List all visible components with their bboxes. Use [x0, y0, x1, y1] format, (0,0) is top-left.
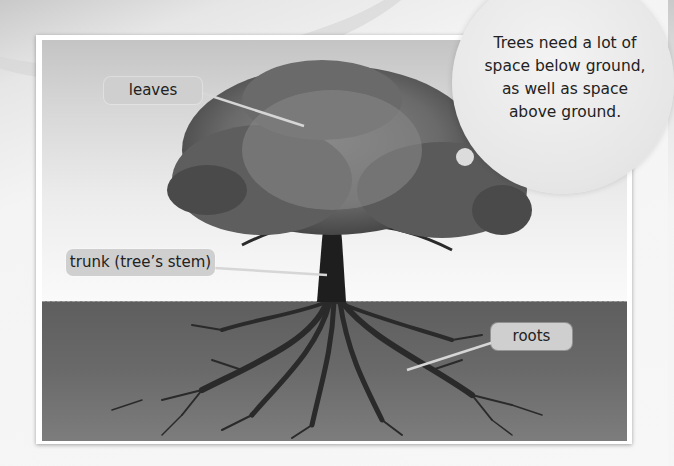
- callout-line: as well as space: [470, 78, 660, 101]
- callout-text: Trees need a lot of space below ground, …: [470, 32, 660, 124]
- roots-graphic: [112, 302, 542, 438]
- label-trunk: trunk (tree’s stem): [66, 249, 215, 276]
- callout-pointer-dot: [456, 148, 474, 166]
- label-leaves: leaves: [104, 77, 202, 104]
- callout-line: space below ground,: [470, 55, 660, 78]
- label-roots: roots: [491, 323, 572, 350]
- callout-line: above ground.: [470, 101, 660, 124]
- callout-line: Trees need a lot of: [470, 32, 660, 55]
